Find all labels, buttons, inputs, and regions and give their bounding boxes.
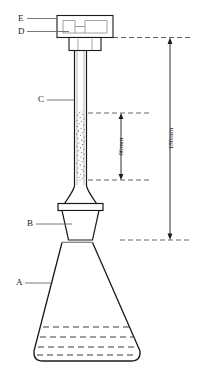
tube-packing-granules — [76, 111, 85, 180]
tube-collar-assembly — [69, 38, 101, 51]
dimension-180mm-arrow-top — [168, 38, 173, 45]
part-label-e: E — [18, 14, 24, 23]
dimension-180mm-arrow-bottom — [168, 234, 173, 241]
part-label-d: D — [18, 27, 25, 36]
conical-flask — [34, 243, 140, 362]
flask-body — [34, 243, 140, 362]
stopper-shoulder-left — [65, 186, 75, 204]
tube-collar-body — [69, 38, 101, 51]
apparatus-drawing — [0, 0, 197, 366]
stopper-body — [62, 211, 99, 241]
stopper-shoulder-right — [87, 186, 97, 204]
stopper-assembly — [58, 186, 103, 240]
part-label-b: B — [27, 219, 33, 228]
dimension-80mm-arrow-bottom — [119, 174, 124, 180]
dimension-label-80mm: 80mm — [118, 130, 125, 164]
apparatus-diagram: E D C B A 80mm 180mm — [0, 0, 197, 366]
part-label-a: A — [16, 278, 23, 287]
dimension-label-180mm: 180mm — [168, 120, 175, 158]
cap-head-assembly — [57, 16, 113, 38]
dimension-80mm-arrow-top — [119, 113, 124, 119]
stopper-rim — [58, 204, 103, 211]
packed-tube-assembly — [75, 51, 87, 187]
part-label-c: C — [38, 95, 44, 104]
